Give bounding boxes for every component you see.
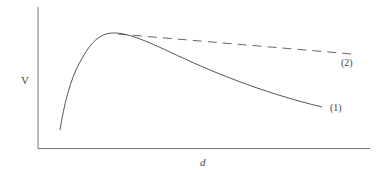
chart-canvas [0,0,387,172]
series-1-line [60,33,322,130]
series-2-label: (2) [341,58,353,68]
series-1-label: (1) [330,103,342,113]
y-axis-label: V [21,75,29,86]
x-axis-label: d [200,157,206,168]
